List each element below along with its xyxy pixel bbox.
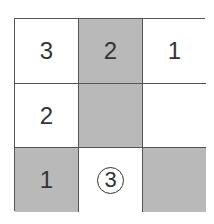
cell-value: 2 [40,102,53,130]
circled-number: 3 [97,167,124,194]
cell-r1c2[interactable]: 2 [79,19,143,84]
cell-r3c1[interactable]: 1 [15,148,79,212]
cell-value: 1 [168,37,181,65]
cell-r1c3[interactable]: 1 [143,19,206,84]
cell-value: 1 [40,166,53,194]
cell-r2c2[interactable] [79,84,143,148]
cell-r2c1[interactable]: 2 [15,84,79,148]
cell-value: 2 [104,37,117,65]
puzzle-grid: 3 2 1 2 1 3 [14,18,205,211]
cell-r2c3[interactable] [143,84,206,148]
cell-r3c3[interactable] [143,148,206,212]
cell-r1c1[interactable]: 3 [15,19,79,84]
cell-r3c2[interactable]: 3 [79,148,143,212]
cell-value: 3 [40,37,53,65]
